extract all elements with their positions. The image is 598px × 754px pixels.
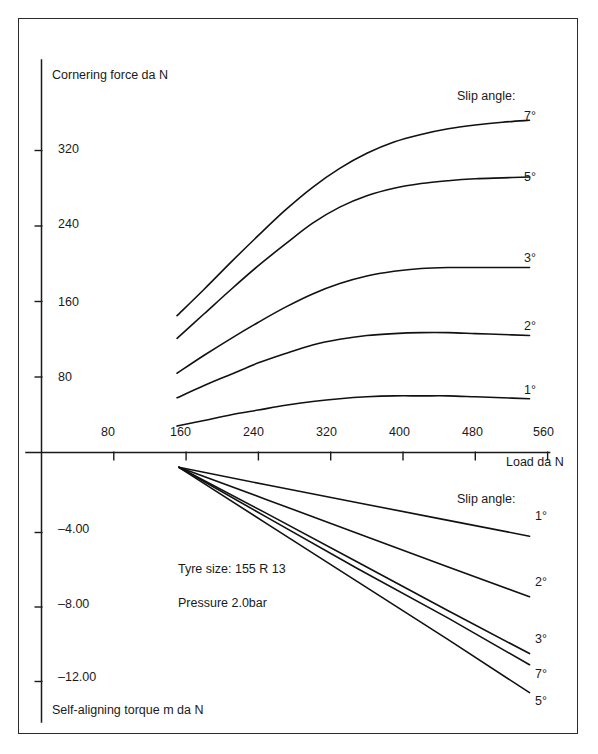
xtick-label-240: 240 xyxy=(243,425,264,439)
ytick-label-160: 160 xyxy=(58,295,79,309)
ytick-label-minus-4: –4.00 xyxy=(58,522,89,536)
annotation-pressure: Pressure 2.0bar xyxy=(178,596,267,610)
series-label-lower-7deg: 7° xyxy=(535,667,547,681)
ytick-label-240: 240 xyxy=(58,217,79,231)
series-label-upper-3deg: 3° xyxy=(524,251,536,265)
plot-canvas xyxy=(0,0,598,754)
self-aligning-torque-axis-title: Self-aligning torque m da N xyxy=(52,703,203,717)
curve-cornering-5deg xyxy=(177,177,529,338)
xtick-label-80: 80 xyxy=(101,425,115,439)
series-label-lower-5deg: 5° xyxy=(535,694,547,708)
curve-cornering-1deg xyxy=(177,396,529,426)
curve-cornering-3deg xyxy=(177,267,529,373)
xtick-label-400: 400 xyxy=(389,425,410,439)
curve-cornering-2deg xyxy=(177,333,529,398)
curve-torque-2deg xyxy=(179,467,530,596)
cornering-force-axis-title: Cornering force da N xyxy=(52,68,168,82)
series-label-upper-7deg: 7° xyxy=(524,109,536,123)
series-label-upper-5deg: 5° xyxy=(524,170,536,184)
series-label-upper-1deg: 1° xyxy=(524,383,536,397)
annotation-tyre-size: Tyre size: 155 R 13 xyxy=(178,562,286,576)
load-axis-title: Load da N xyxy=(506,455,564,469)
series-label-upper-2deg: 2° xyxy=(524,319,536,333)
xtick-label-560: 560 xyxy=(533,425,554,439)
xtick-label-480: 480 xyxy=(462,425,483,439)
series-label-lower-1deg: 1° xyxy=(535,509,547,523)
series-label-lower-3deg: 3° xyxy=(535,632,547,646)
xtick-label-160: 160 xyxy=(170,425,191,439)
ytick-label-minus-12: –12.00 xyxy=(58,670,96,684)
chart-figure: Cornering force da N Load da N Self-alig… xyxy=(0,0,598,754)
ytick-label-320: 320 xyxy=(58,142,79,156)
legend-title-upper: Slip angle: xyxy=(457,89,515,103)
curve-cornering-7deg xyxy=(177,120,529,315)
ytick-label-minus-8: –8.00 xyxy=(58,597,89,611)
legend-title-lower: Slip angle: xyxy=(457,492,515,506)
cornering-force-curves xyxy=(177,120,529,426)
ytick-label-80: 80 xyxy=(58,370,72,384)
xtick-label-320: 320 xyxy=(316,425,337,439)
series-label-lower-2deg: 2° xyxy=(535,575,547,589)
